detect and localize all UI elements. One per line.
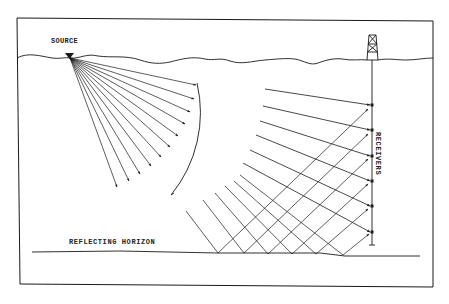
derrick-icon	[367, 35, 378, 60]
reflecting-horizon-label: REFLECTING HORIZON	[69, 238, 155, 246]
wavefront-arc	[171, 83, 200, 195]
downgoing-rays	[186, 175, 343, 255]
receivers-label: RECEIVERS	[374, 132, 382, 175]
reflecting-horizon	[32, 251, 420, 256]
reflected-rays	[218, 109, 369, 255]
fan-rays	[70, 58, 196, 187]
source-label: SOURCE	[51, 37, 78, 45]
